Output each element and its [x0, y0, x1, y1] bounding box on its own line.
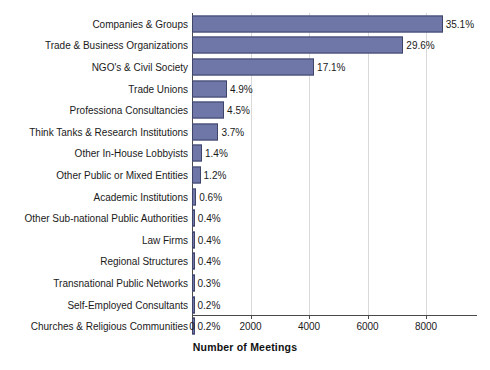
bar-row: Self-Employed Consultants0.2% — [0, 294, 490, 316]
bar — [192, 296, 195, 313]
x-axis-tick — [309, 315, 310, 319]
bar-value-label: 35.1% — [446, 18, 474, 29]
category-label: Self-Employed Consultants — [67, 299, 188, 310]
bar — [192, 188, 196, 205]
bar-value-label: 0.6% — [199, 191, 222, 202]
category-label: Regional Structures — [100, 256, 188, 267]
bar-row: Professiona Consultancies4.5% — [0, 99, 490, 121]
bar — [192, 231, 195, 248]
bar-value-label: 0.4% — [198, 213, 221, 224]
x-axis-tick-label: 0 — [189, 321, 195, 332]
bar-value-label: 4.5% — [227, 105, 250, 116]
bar-row: NGO's & Civil Society17.1% — [0, 56, 490, 78]
category-label: Trade Unions — [128, 83, 188, 94]
category-label: Professiona Consultancies — [70, 105, 188, 116]
bar — [192, 253, 195, 270]
bar — [192, 123, 218, 140]
category-label: Trade & Business Organizations — [45, 40, 188, 51]
category-label: Other Sub-national Public Authorities — [25, 213, 188, 224]
bar — [192, 145, 202, 162]
bar-row: Academic Institutions0.6% — [0, 186, 490, 208]
bar — [192, 166, 201, 183]
bar-value-label: 0.4% — [198, 256, 221, 267]
bar-value-label: 1.4% — [205, 148, 228, 159]
bar-value-label: 0.4% — [198, 234, 221, 245]
bar-value-label: 0.3% — [198, 277, 221, 288]
category-label: NGO's & Civil Society — [92, 61, 188, 72]
bar — [192, 274, 195, 291]
x-axis-tick-label: 2000 — [239, 321, 261, 332]
category-label: Think Tanks & Research Institutions — [29, 126, 188, 137]
horizontal-bar-chart: Companies & Groups35.1%Trade & Business … — [0, 0, 490, 370]
bar-row: Other In-House Lobbyists1.4% — [0, 143, 490, 165]
bar — [192, 102, 224, 119]
bar-value-label: 29.6% — [406, 40, 434, 51]
x-axis-tick-label: 8000 — [415, 321, 437, 332]
x-axis-tick — [192, 315, 193, 319]
bar-row: Trade Unions4.9% — [0, 78, 490, 100]
bar-value-label: 3.7% — [221, 126, 244, 137]
category-label: Other Public or Mixed Entities — [56, 169, 188, 180]
bar — [192, 210, 195, 227]
category-label: Transnational Public Networks — [53, 277, 188, 288]
bar-value-label: 17.1% — [317, 61, 345, 72]
bar-row: Trade & Business Organizations29.6% — [0, 35, 490, 57]
bar-row: Law Firms0.4% — [0, 229, 490, 251]
bar — [192, 80, 227, 97]
category-label: Academic Institutions — [94, 191, 189, 202]
bar-value-label: 0.2% — [198, 321, 221, 332]
x-axis-tick-label: 4000 — [298, 321, 320, 332]
category-label: Churches & Religious Communities — [31, 321, 188, 332]
bar-row: Other Public or Mixed Entities1.2% — [0, 164, 490, 186]
bar-row: Regional Structures0.4% — [0, 251, 490, 273]
bar — [192, 15, 443, 32]
x-axis-tick — [368, 315, 369, 319]
bar-row: Companies & Groups35.1% — [0, 13, 490, 35]
category-label: Other In-House Lobbyists — [75, 148, 188, 159]
x-axis-title: Number of Meetings — [0, 341, 490, 353]
bar-value-label: 4.9% — [230, 83, 253, 94]
category-label: Law Firms — [142, 234, 188, 245]
bar — [192, 58, 314, 75]
bar-row: Other Sub-national Public Authorities0.4… — [0, 207, 490, 229]
x-axis-tick — [426, 315, 427, 319]
bar-value-label: 1.2% — [204, 169, 227, 180]
bar-row: Transnational Public Networks0.3% — [0, 272, 490, 294]
category-label: Companies & Groups — [92, 18, 188, 29]
x-axis-tick-label: 6000 — [356, 321, 378, 332]
x-axis-tick — [251, 315, 252, 319]
bar-row: Think Tanks & Research Institutions3.7% — [0, 121, 490, 143]
bar — [192, 37, 403, 54]
bar-value-label: 0.2% — [198, 299, 221, 310]
bar-rows: Companies & Groups35.1%Trade & Business … — [0, 13, 490, 315]
